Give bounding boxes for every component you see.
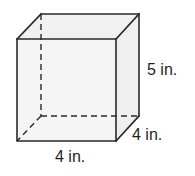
height-label: 5 in. [147, 62, 177, 78]
width-label: 4 in. [55, 149, 85, 165]
rectangular-prism-diagram [0, 0, 195, 176]
depth-label: 4 in. [132, 127, 162, 143]
